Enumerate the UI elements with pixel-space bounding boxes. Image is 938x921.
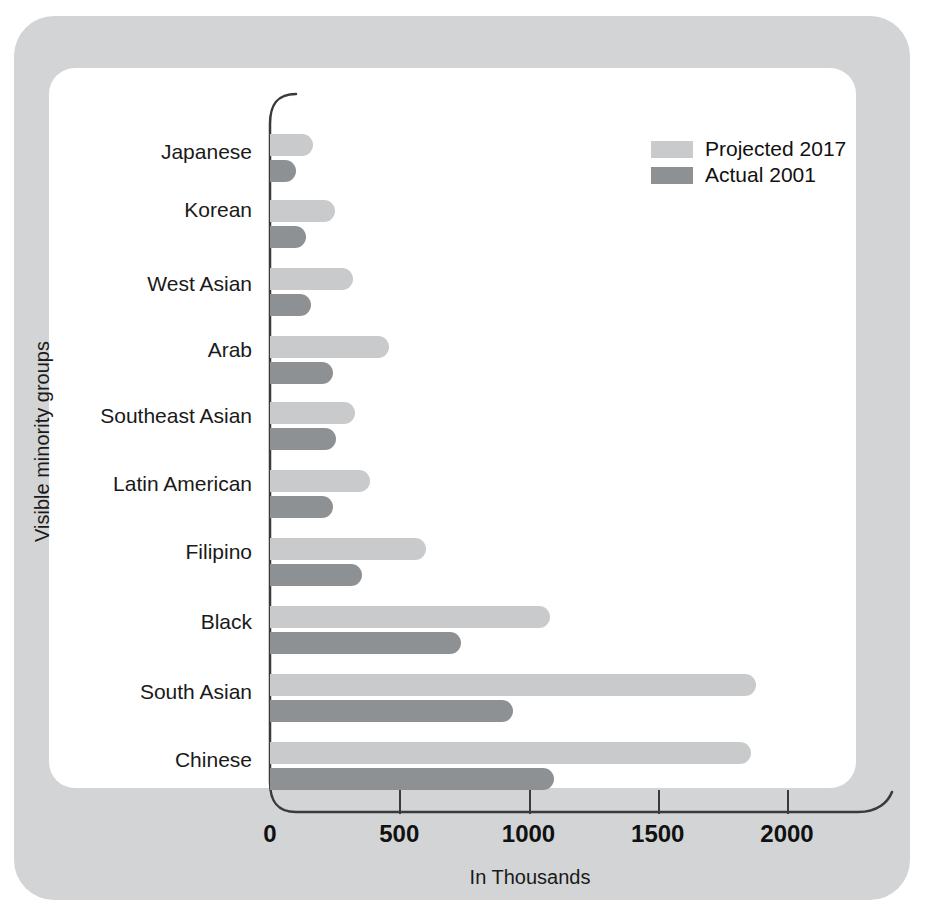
bar-japanese-actual-2001[interactable] [270,160,296,182]
category-label-korean: Korean [12,198,252,222]
x-tick-500 [399,790,401,814]
bar-group-filipino [270,538,910,590]
legend-label-actual: Actual 2001 [705,163,816,187]
category-label-south-asian: South Asian [12,680,252,704]
x-axis-title: In Thousands [270,866,790,889]
bar-chinese-projected-2017[interactable] [270,742,751,764]
bar-group-chinese [270,742,910,794]
x-tick-label-1000: 1000 [484,820,574,848]
bar-group-west-asian [270,268,910,320]
bar-korean-actual-2001[interactable] [270,226,306,248]
legend-swatch-projected-icon [651,141,693,158]
category-label-japanese: Japanese [12,140,252,164]
bar-west-asian-projected-2017[interactable] [270,268,353,290]
bar-latin-american-actual-2001[interactable] [270,496,333,518]
bar-group-latin-american [270,470,910,522]
bar-chart: Japanese Korean West Asian Arab Southeas… [0,0,938,921]
bar-west-asian-actual-2001[interactable] [270,294,311,316]
legend-label-projected: Projected 2017 [705,137,846,161]
x-tick-1000 [529,790,531,814]
x-tick-label-500: 500 [354,820,444,848]
bar-south-asian-projected-2017[interactable] [270,674,756,696]
bar-southeast-asian-actual-2001[interactable] [270,428,336,450]
bar-south-asian-actual-2001[interactable] [270,700,513,722]
legend-item-projected: Projected 2017 [651,136,846,162]
x-tick-label-2000: 2000 [742,820,832,848]
bar-black-actual-2001[interactable] [270,632,461,654]
x-tick-label-0: 0 [225,820,315,848]
bar-black-projected-2017[interactable] [270,606,550,628]
bar-japanese-projected-2017[interactable] [270,134,313,156]
bar-chinese-actual-2001[interactable] [270,768,554,790]
bar-filipino-projected-2017[interactable] [270,538,426,560]
bar-arab-projected-2017[interactable] [270,336,389,358]
bar-latin-american-projected-2017[interactable] [270,470,370,492]
bar-group-southeast-asian [270,402,910,454]
x-tick-label-1500: 1500 [613,820,703,848]
bar-filipino-actual-2001[interactable] [270,564,362,586]
category-label-chinese: Chinese [12,748,252,772]
legend-swatch-actual-icon [651,167,693,184]
chart-legend: Projected 2017 Actual 2001 [651,136,846,188]
y-axis-title: Visible minority groups [31,312,54,572]
x-tick-1500 [658,790,660,814]
bar-southeast-asian-projected-2017[interactable] [270,402,355,424]
category-label-black: Black [12,610,252,634]
bar-group-black [270,606,910,658]
x-tick-2000 [787,790,789,814]
category-label-column: Japanese Korean West Asian Arab Southeas… [8,0,252,921]
bar-group-korean [270,200,910,252]
bar-group-arab [270,336,910,388]
bar-arab-actual-2001[interactable] [270,362,333,384]
legend-item-actual: Actual 2001 [651,162,846,188]
bar-korean-projected-2017[interactable] [270,200,335,222]
category-label-west-asian: West Asian [12,272,252,296]
bar-group-south-asian [270,674,910,726]
